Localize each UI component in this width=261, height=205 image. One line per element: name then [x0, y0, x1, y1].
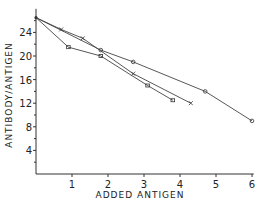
x-tick-label: 2 [105, 179, 111, 190]
y-tick-label: 24 [19, 27, 32, 38]
series-line [36, 18, 252, 121]
x-tick-label: 3 [141, 179, 147, 190]
y-tick-label: 16 [19, 75, 32, 86]
series-line [36, 18, 191, 104]
y-tick-label: 20 [19, 51, 32, 62]
y-tick-label: 8 [26, 122, 32, 133]
series-circles [36, 18, 254, 123]
chart: 1234564812162024 ADDED ANTIGEN ANTIBODY/… [0, 0, 261, 205]
origin-marker [34, 16, 37, 19]
x-marker [189, 101, 193, 105]
x-tick-label: 6 [249, 179, 255, 190]
series-group [34, 16, 253, 123]
x-tick-label: 5 [213, 179, 219, 190]
x-marker [81, 36, 85, 40]
y-axis-label: ANTIBODY/ANTIGEN [4, 42, 14, 148]
y-tick-label: 12 [19, 98, 32, 109]
series-squares [36, 18, 175, 102]
axes: 1234564812162024 [19, 9, 255, 190]
x-axis-label: ADDED ANTIGEN [96, 190, 185, 200]
x-tick-label: 1 [69, 179, 75, 190]
x-tick-label: 4 [177, 179, 183, 190]
series-crosses [36, 18, 193, 106]
series-line [36, 18, 173, 101]
y-tick-label: 4 [26, 145, 32, 156]
